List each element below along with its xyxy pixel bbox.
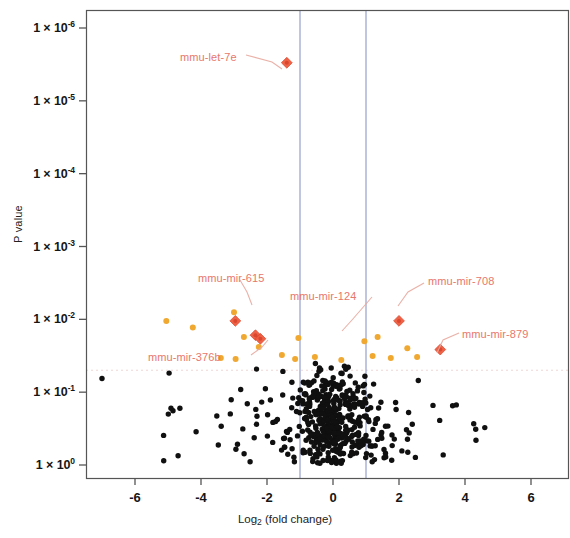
y-axis-tick-label: 1 × 10-5 bbox=[13, 92, 75, 108]
x-axis-tick-label: -6 bbox=[118, 490, 152, 505]
labels-layer: 1 × 10-61 × 10-51 × 10-41 × 10-31 × 10-2… bbox=[0, 0, 570, 538]
x-axis-tick-label: 0 bbox=[316, 490, 350, 505]
y-tick-mantissa: 1 × 10 bbox=[33, 240, 68, 254]
y-axis-tick-label: 1 × 10-6 bbox=[13, 19, 75, 35]
y-tick-mantissa: 1 × 10 bbox=[33, 21, 68, 35]
annotation-label-mmu-mir-615: mmu-mir-615 bbox=[198, 272, 265, 284]
x-axis-tick-label: 2 bbox=[382, 490, 416, 505]
y-tick-exponent: -5 bbox=[68, 92, 75, 102]
y-tick-mantissa: 1 × 10 bbox=[33, 94, 68, 108]
annotation-label-mmu-mir-376b: mmu-mir-376b bbox=[148, 351, 221, 363]
annotation-label-mmu-mir-708: mmu-mir-708 bbox=[428, 275, 495, 287]
y-axis-tick-label: 1 × 10-1 bbox=[13, 383, 75, 399]
y-tick-exponent: -1 bbox=[68, 383, 75, 393]
y-tick-exponent: -2 bbox=[68, 310, 75, 320]
y-tick-mantissa: 1 × 10 bbox=[33, 312, 68, 326]
x-axis-tick-label: 4 bbox=[448, 490, 482, 505]
annotation-label-mmu-let-7e: mmu-let-7e bbox=[180, 51, 237, 63]
volcano-plot-figure: P value Log2 (fold change) 1 × 10-61 × 1… bbox=[0, 0, 570, 538]
y-tick-exponent: 0 bbox=[70, 456, 75, 466]
y-tick-mantissa: 1 × 10 bbox=[33, 167, 68, 181]
x-axis-tick-label: -4 bbox=[184, 490, 218, 505]
y-tick-exponent: -6 bbox=[68, 19, 75, 29]
y-axis-tick-label: 1 × 10-3 bbox=[13, 238, 75, 254]
annotation-label-mmu-mir-124: mmu-mir-124 bbox=[290, 290, 357, 302]
y-tick-mantissa: 1 × 10 bbox=[33, 385, 68, 399]
y-tick-exponent: -3 bbox=[68, 238, 75, 248]
x-axis-tick-label: 6 bbox=[514, 490, 548, 505]
y-tick-mantissa: 1 × 10 bbox=[36, 458, 71, 472]
x-axis-tick-label: -2 bbox=[250, 490, 284, 505]
annotation-label-mmu-mir-879: mmu-mir-879 bbox=[462, 328, 529, 340]
y-axis-tick-label: 1 × 10-4 bbox=[13, 165, 75, 181]
y-axis-tick-label: 1 × 100 bbox=[13, 456, 75, 472]
y-tick-exponent: -4 bbox=[68, 165, 75, 175]
y-axis-tick-label: 1 × 10-2 bbox=[13, 310, 75, 326]
